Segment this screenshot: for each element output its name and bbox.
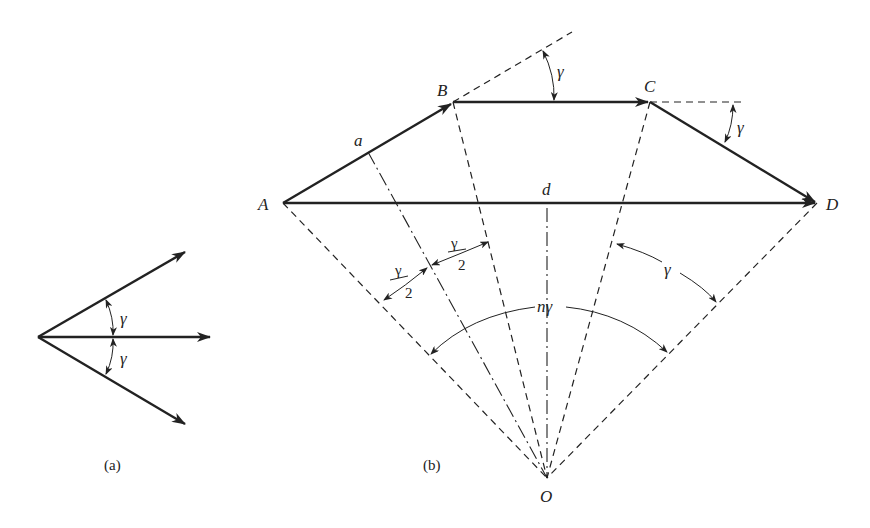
point-label-D: D bbox=[825, 195, 839, 214]
angle-label-B: γ bbox=[557, 62, 565, 81]
figure-a: γ γ (a) bbox=[38, 252, 210, 474]
figure-b: γ γ γ 2 γ 2 γ nγ A B C D O a d (b) bbox=[257, 32, 839, 506]
caption-b: (b) bbox=[423, 457, 441, 474]
half-gamma-left-den: 2 bbox=[405, 285, 413, 301]
point-label-O: O bbox=[540, 487, 552, 506]
bisector-aO bbox=[368, 152, 547, 478]
upper-vector-arrow bbox=[38, 252, 185, 337]
point-label-C: C bbox=[644, 77, 656, 96]
point-label-A: A bbox=[257, 195, 269, 214]
vector-AB bbox=[283, 104, 451, 203]
radial-line-CO bbox=[547, 102, 650, 478]
n-gamma-arc-left bbox=[431, 307, 535, 354]
angle-label-lower: γ bbox=[120, 349, 128, 368]
lower-vector-arrow bbox=[38, 337, 185, 424]
gamma-sector-label: γ bbox=[664, 260, 672, 279]
radial-line-DO bbox=[547, 203, 817, 478]
segment-label-d: d bbox=[542, 180, 551, 199]
angle-arc-upper bbox=[106, 300, 113, 335]
angle-arc-lower bbox=[106, 339, 113, 374]
n-gamma-label: nγ bbox=[537, 297, 554, 316]
angle-label-C: γ bbox=[737, 118, 745, 137]
angle-arc-C bbox=[725, 105, 733, 142]
radial-line-BO bbox=[453, 102, 547, 478]
point-label-B: B bbox=[437, 81, 448, 100]
gamma-sector-arc-right bbox=[680, 273, 716, 302]
angle-label-upper: γ bbox=[120, 309, 128, 328]
segment-label-a: a bbox=[354, 131, 363, 150]
half-gamma-left-num: γ bbox=[394, 262, 402, 278]
angle-arc-B bbox=[543, 51, 554, 100]
n-gamma-arc-right bbox=[566, 307, 667, 352]
gamma-sector-arc-left bbox=[617, 244, 662, 262]
diagram-canvas: γ γ (a) γ γ γ 2 γ 2 bbox=[0, 0, 870, 528]
caption-a: (a) bbox=[104, 457, 121, 474]
half-gamma-right-num: γ bbox=[450, 235, 458, 251]
radial-line-AO bbox=[283, 203, 547, 478]
half-gamma-right-den: 2 bbox=[458, 257, 466, 273]
